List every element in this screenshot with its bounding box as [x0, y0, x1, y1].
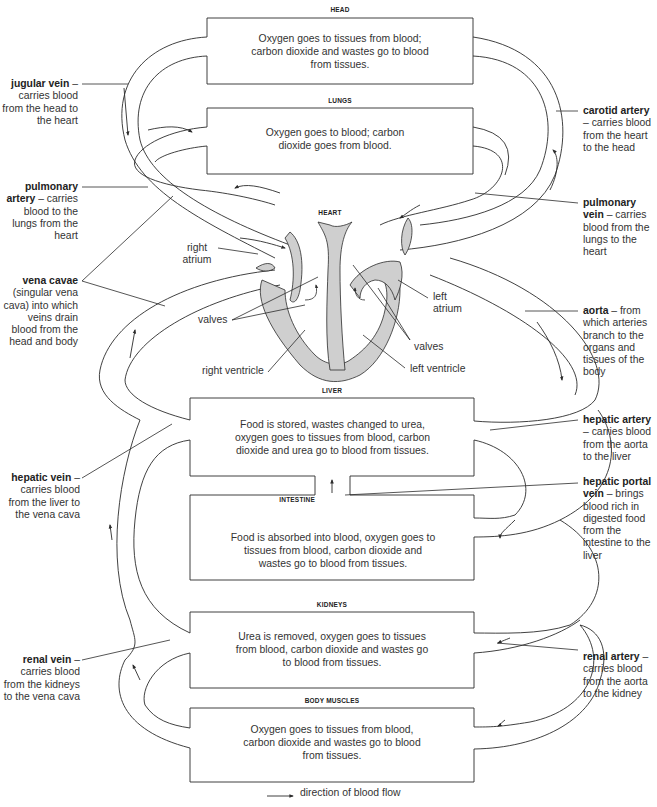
label-aorta-name: aorta: [583, 305, 608, 316]
label-jugular-vein: jugular vein – carries blood from the he…: [0, 78, 78, 127]
label-aorta: aorta – from which arteries branch to th…: [583, 305, 655, 379]
kidneys-title: KIDNEYS: [190, 601, 474, 608]
heart: [256, 218, 412, 382]
leader-left-atrium: [398, 280, 428, 298]
body-muscles-text: Oxygen goes to tissues from blood, carbo…: [242, 723, 422, 762]
liver-text: Food is stored, wastes changed to urea, …: [230, 418, 435, 457]
left-atrium-wall: [350, 261, 402, 300]
label-vena-cavae-name: vena cavae: [23, 275, 78, 286]
right-atrium-tip: [256, 264, 275, 272]
kidneys-text: Urea is removed, oxygen goes to tissues …: [232, 630, 432, 669]
label-hepatic-portal-vein: hepatic portal vein – brings blood rich …: [583, 476, 655, 562]
lungs-text: Oxygen goes to blood; carbon dioxide goe…: [255, 126, 415, 152]
intestine-title: INTESTINE: [265, 496, 315, 503]
label-renal-vein-name: renal vein: [23, 654, 72, 665]
heart-title: HEART: [300, 209, 360, 216]
label-carotid-artery-desc: – carries blood from the heart to the he…: [583, 117, 651, 153]
label-jugular-vein-name: jugular vein: [11, 78, 69, 89]
leader-pulmonary-vein: [475, 193, 578, 203]
label-left-ventricle: left ventricle: [410, 363, 465, 375]
right-atrium-flap: [285, 232, 302, 302]
label-right-ventricle: right ventricle: [202, 365, 264, 377]
label-hepatic-vein-name: hepatic vein: [11, 472, 71, 483]
body-muscles-title: BODY MUSCLES: [190, 697, 474, 704]
leader-hepatic-vein: [82, 424, 172, 478]
label-renal-artery: renal artery – carries blood from the ao…: [583, 651, 655, 700]
label-vena-cavae: vena cavae (singular vena cava) into whi…: [0, 275, 78, 349]
label-renal-artery-name: renal artery: [583, 651, 640, 662]
label-carotid-artery-name: carotid artery: [583, 105, 649, 116]
pulmonary-vein: [380, 146, 503, 225]
leader-vena-cavae-2: [82, 281, 165, 306]
lungs-box-right: [473, 127, 509, 175]
label-hepatic-vein: hepatic vein – carries blood from the li…: [0, 472, 80, 521]
label-pulmonary-vein: pulmonary vein – carries blood from the …: [583, 197, 655, 258]
label-renal-vein: renal vein – carries blood from the kidn…: [0, 654, 80, 703]
label-hepatic-artery-name: hepatic artery: [583, 414, 651, 425]
septum: [318, 222, 352, 370]
leader-hepatic-portal: [345, 483, 578, 495]
circulation-diagram: [0, 0, 657, 807]
pulmonary-artery: [134, 127, 275, 205]
vena-cava: [99, 270, 275, 748]
leader-renal-vein: [82, 640, 170, 660]
leader-right-atrium: [218, 248, 258, 254]
label-valves-left: valves: [198, 314, 227, 326]
label-carotid-artery: carotid artery – carries blood from the …: [583, 105, 655, 154]
legend: direction of blood flow: [300, 787, 401, 798]
head-title: HEAD: [207, 6, 473, 13]
label-hepatic-artery: hepatic artery – carries blood from the …: [583, 414, 655, 463]
leader-renal-artery: [497, 643, 578, 650]
label-right-atrium: right atrium: [178, 242, 216, 267]
label-vena-cavae-desc: (singular vena cava) into which veins dr…: [3, 287, 78, 347]
head-text: Oxygen goes to tissues from blood; carbo…: [250, 32, 430, 71]
legend-text: direction of blood flow: [300, 787, 401, 798]
liver-title: LIVER: [190, 387, 474, 394]
label-left-atrium: left atrium: [433, 291, 467, 316]
label-hepatic-artery-desc: – carries blood from the aorta to the li…: [583, 426, 651, 462]
label-valves-right: valves: [414, 341, 443, 353]
leader-vena-cavae-1: [82, 196, 173, 281]
intestine-text: Food is absorbed into blood, oxygen goes…: [228, 531, 438, 570]
lungs-title: LUNGS: [207, 97, 473, 104]
leader-hepatic-artery: [490, 420, 578, 430]
label-pulmonary-artery: pulmonary artery – carries blood to the …: [0, 181, 78, 242]
